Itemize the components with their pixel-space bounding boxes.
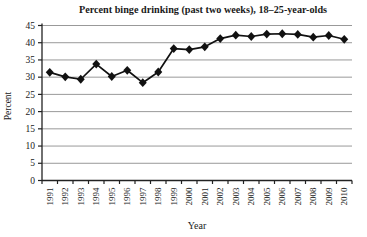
data-point-2008: [309, 33, 317, 42]
x-tick-label-2008: 2008: [308, 187, 318, 206]
data-point-2006: [278, 29, 286, 38]
x-tick-label-2000: 2000: [184, 187, 194, 206]
y-axis-title: Percent: [3, 91, 13, 120]
x-tick-label-2004: 2004: [246, 187, 256, 206]
x-tick-label-2007: 2007: [293, 187, 303, 206]
y-tick-label-25: 25: [26, 90, 36, 100]
binge-drinking-line-chart: 0510152025303540451991199219931994199519…: [0, 0, 367, 237]
y-tick-label-15: 15: [26, 124, 36, 134]
y-tick-label-20: 20: [26, 107, 36, 117]
x-axis-title: Year: [188, 220, 207, 231]
data-point-1991: [46, 68, 54, 77]
x-tick-label-2005: 2005: [262, 187, 272, 206]
y-tick-label-30: 30: [26, 72, 36, 82]
data-point-2005: [263, 30, 271, 39]
data-point-2007: [294, 30, 302, 39]
chart-title: Percent binge drinking (past two weeks),…: [79, 4, 327, 16]
y-tick-label-10: 10: [26, 141, 36, 151]
data-point-2003: [232, 31, 240, 40]
data-point-2002: [216, 34, 224, 43]
data-point-1992: [61, 72, 69, 81]
y-tick-label-40: 40: [26, 38, 36, 48]
x-tick-label-1992: 1992: [60, 188, 70, 206]
x-tick-label-1995: 1995: [107, 187, 117, 206]
x-tick-label-2009: 2009: [324, 187, 334, 206]
x-tick-label-2010: 2010: [339, 187, 349, 206]
x-tick-label-2006: 2006: [277, 187, 287, 206]
y-tick-label-5: 5: [30, 158, 35, 168]
chart-svg: 0510152025303540451991199219931994199519…: [0, 0, 367, 237]
y-tick-label-0: 0: [30, 176, 35, 186]
x-tick-label-2002: 2002: [215, 188, 225, 206]
x-tick-label-2001: 2001: [200, 188, 210, 206]
x-tick-label-1991: 1991: [45, 188, 55, 206]
x-tick-label-1993: 1993: [76, 187, 86, 206]
x-tick-label-1994: 1994: [91, 187, 101, 206]
data-point-2004: [247, 32, 255, 41]
y-tick-label-45: 45: [26, 21, 36, 31]
data-point-2009: [325, 31, 333, 40]
x-tick-label-1999: 1999: [169, 187, 179, 206]
y-tick-label-35: 35: [26, 55, 36, 65]
x-tick-label-1998: 1998: [153, 187, 163, 206]
data-point-2000: [185, 45, 193, 54]
x-tick-label-1996: 1996: [122, 187, 132, 206]
data-series-line: [50, 34, 345, 83]
data-point-2001: [201, 42, 209, 51]
x-tick-label-2003: 2003: [231, 187, 241, 206]
x-tick-label-1997: 1997: [138, 187, 148, 206]
